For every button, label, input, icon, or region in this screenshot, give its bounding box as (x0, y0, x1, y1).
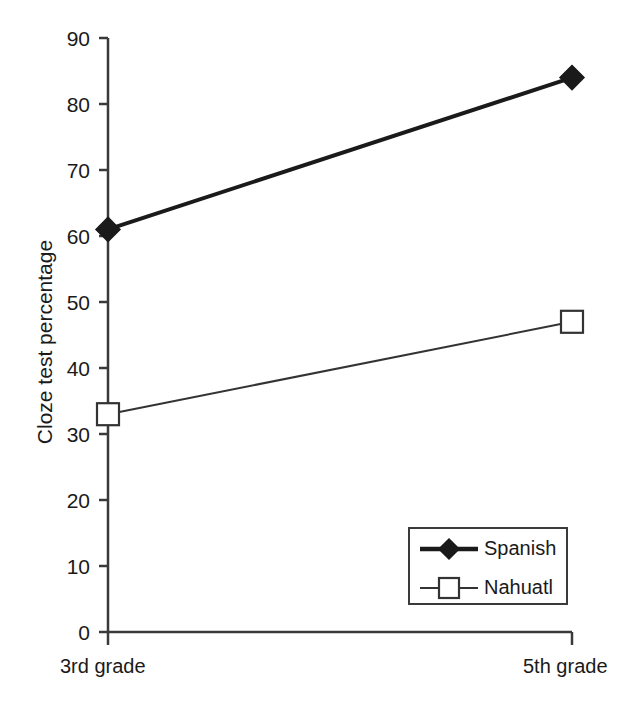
x-tick-label-3rd-grade: 3rd grade (60, 656, 146, 676)
marker-nahuatl-3rd (97, 403, 119, 425)
legend-entry-nahuatl: Nahuatl (410, 568, 570, 607)
legend-marker-open-square-icon (418, 575, 480, 601)
y-tick-label-20: 20 (40, 490, 90, 511)
chart-legend: Spanish Nahuatl (408, 527, 568, 605)
legend-label-spanish: Spanish (484, 537, 556, 560)
legend-label-nahuatl: Nahuatl (484, 576, 553, 599)
legend-entry-spanish: Spanish (410, 529, 570, 568)
series-line-nahuatl (108, 322, 572, 414)
y-axis-title: Cloze test percentage (33, 202, 57, 482)
marker-spanish-3rd (96, 217, 120, 241)
marker-spanish-5th (560, 66, 584, 90)
y-tick-label-0: 0 (40, 622, 90, 643)
marker-nahuatl-5th (561, 311, 583, 333)
legend-marker-filled-diamond-icon (418, 536, 480, 562)
y-tick-label-10: 10 (40, 556, 90, 577)
line-chart: 90 80 70 60 50 40 30 20 10 0 Cloze test … (0, 0, 641, 709)
y-tick-label-90: 90 (40, 28, 90, 49)
series-line-spanish (108, 78, 572, 230)
x-tick-label-5th-grade: 5th grade (523, 656, 608, 676)
y-tick-label-80: 80 (40, 94, 90, 115)
y-tick-label-70: 70 (40, 160, 90, 181)
x-tick-marks (108, 632, 572, 645)
y-tick-marks (99, 38, 108, 632)
